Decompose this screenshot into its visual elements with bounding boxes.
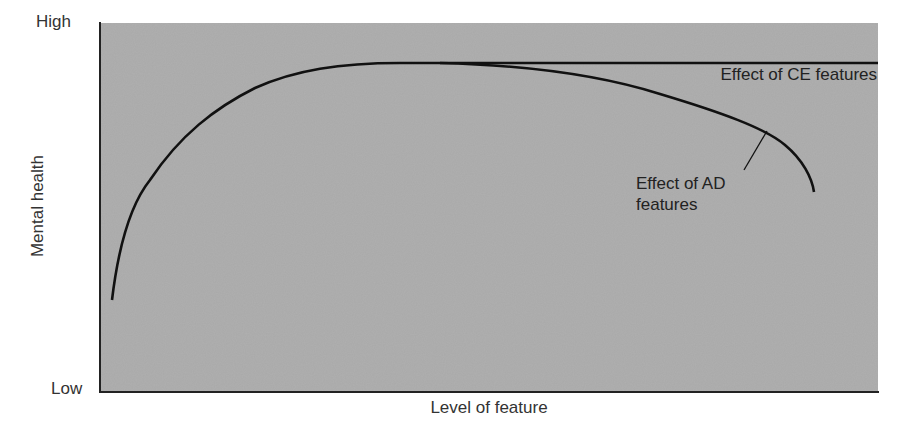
y-tick-high: High [36, 12, 71, 32]
figure: High Low Mental health Level of feature … [0, 0, 909, 433]
ad-annotation-line2: features [636, 194, 725, 215]
ce-annotation: Effect of CE features [720, 64, 877, 85]
ad-annotation-line1: Effect of AD [636, 173, 725, 194]
y-tick-low: Low [51, 379, 82, 399]
ad-annotation: Effect of AD features [636, 173, 725, 215]
x-axis-label: Level of feature [100, 398, 878, 418]
y-axis-label: Mental health [28, 155, 48, 257]
